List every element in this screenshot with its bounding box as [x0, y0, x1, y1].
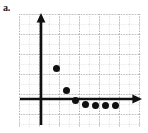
- data-point: [92, 102, 99, 109]
- panel-label: a.: [3, 2, 10, 13]
- figure-panel: a.: [0, 0, 148, 133]
- plot-area: [19, 14, 141, 127]
- data-points: [19, 14, 141, 127]
- data-point: [82, 101, 89, 108]
- data-point: [102, 102, 109, 109]
- data-point: [63, 87, 70, 94]
- data-point: [72, 97, 79, 104]
- data-point: [53, 65, 60, 72]
- data-point: [112, 102, 119, 109]
